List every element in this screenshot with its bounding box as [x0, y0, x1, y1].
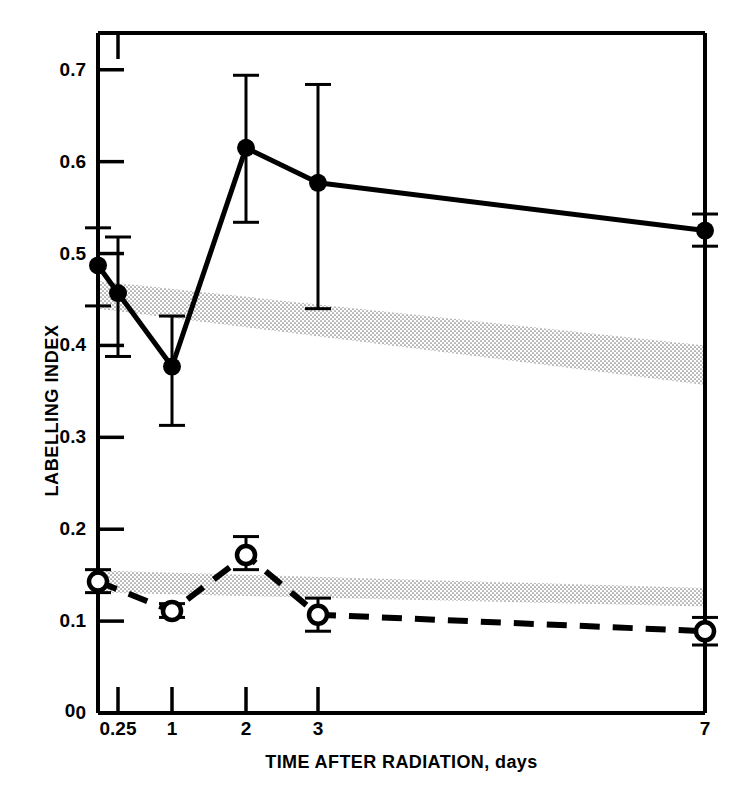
x-tick-label-7: 7 [700, 718, 711, 740]
marker-filled-circle-3 [309, 174, 327, 192]
marker-filled-circle-1 [163, 358, 181, 376]
x-tick-label-1: 1 [167, 718, 178, 740]
y-tick-label-0.4: 0.4 [60, 334, 86, 356]
x-axis-title: TIME AFTER RADIATION, days [98, 752, 705, 773]
labelling-index-line-chart [0, 0, 751, 792]
marker-open-circle-0 [89, 573, 107, 591]
marker-open-circle-1 [163, 602, 181, 620]
marker-open-circle-2 [237, 546, 255, 564]
y-tick-label-0.6: 0.6 [60, 151, 86, 173]
marker-filled-circle-0 [89, 256, 107, 274]
marker-filled-circle-2 [237, 139, 255, 157]
x-tick-label-0: 0 [65, 700, 76, 722]
marker-open-circle-7 [696, 622, 714, 640]
chart-figure: LABELLING INDEX TIME AFTER RADIATION, da… [0, 0, 751, 792]
marker-open-circle-3 [309, 606, 327, 624]
y-tick-label-0.7: 0.7 [60, 59, 86, 81]
y-tick-label-0.5: 0.5 [60, 243, 86, 265]
marker-filled-circle-0.25 [109, 284, 127, 302]
x-tick-label-3: 3 [313, 718, 324, 740]
y-tick-label-0.1: 0.1 [60, 610, 86, 632]
x-tick-label-2: 2 [241, 718, 252, 740]
y-tick-label-0.3: 0.3 [60, 426, 86, 448]
x-tick-label-0.25: 0.25 [100, 718, 137, 740]
y-tick-label-0: 0 [75, 702, 86, 724]
marker-filled-circle-7 [696, 222, 714, 240]
chart-background [0, 0, 751, 792]
y-tick-label-0.2: 0.2 [60, 518, 86, 540]
